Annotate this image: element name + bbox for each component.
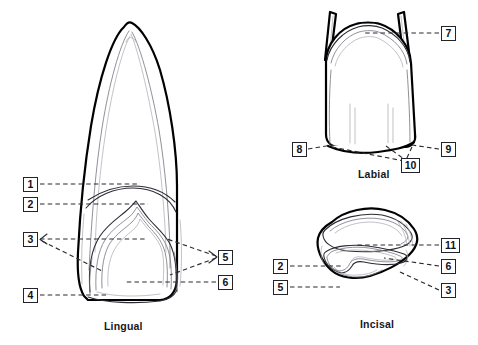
callout-labial-8[interactable]: 8 — [292, 142, 307, 157]
callout-lingual-1[interactable]: 1 — [23, 177, 38, 192]
leader-lingual-5-arrowhead — [209, 251, 217, 263]
tooth-anatomy-figure: 1 2 3 4 5 6 7 8 9 10 11 2 6 5 3 Lingual … — [0, 0, 478, 345]
callout-labial-7[interactable]: 7 — [441, 26, 456, 41]
callout-lingual-3[interactable]: 3 — [23, 232, 38, 247]
incisal-view-drawing — [290, 209, 439, 291]
lingual-tooth-outline — [78, 22, 177, 300]
callout-labial-9[interactable]: 9 — [441, 142, 456, 157]
lingual-distal-contour — [180, 220, 182, 286]
lingual-view-drawing — [40, 22, 217, 302]
caption-labial: Labial — [358, 168, 390, 180]
callout-lingual-6[interactable]: 6 — [218, 275, 233, 290]
callout-incisal-2[interactable]: 2 — [273, 259, 288, 274]
caption-lingual: Lingual — [104, 320, 143, 332]
callout-labial-10[interactable]: 10 — [401, 158, 420, 173]
leader-labial-9 — [412, 145, 439, 149]
callout-lingual-4[interactable]: 4 — [23, 288, 38, 303]
callout-incisal-11[interactable]: 11 — [441, 238, 460, 253]
callout-incisal-3[interactable]: 3 — [441, 283, 456, 298]
callout-incisal-6[interactable]: 6 — [441, 259, 456, 274]
labial-view-drawing — [308, 12, 439, 161]
callout-lingual-5[interactable]: 5 — [218, 250, 233, 265]
callout-lingual-2[interactable]: 2 — [23, 197, 38, 212]
leader-incisal-3 — [400, 272, 439, 290]
callout-incisal-5[interactable]: 5 — [273, 280, 288, 295]
labial-crown-outline — [326, 23, 415, 148]
caption-incisal: Incisal — [360, 318, 394, 330]
